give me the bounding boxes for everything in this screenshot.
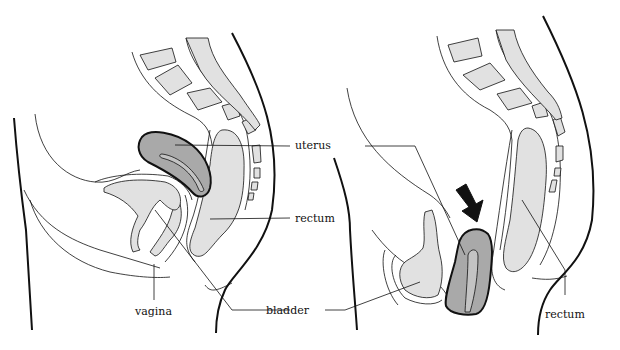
body-outline-front-right: [334, 158, 357, 330]
label-rectum-right: rectum: [545, 308, 585, 321]
label-vagina: vagina: [134, 305, 172, 318]
body-outline-front: [14, 118, 32, 330]
spine-right: [437, 30, 565, 265]
leader-uterus-right: [365, 146, 465, 255]
label-rectum-left: rectum: [295, 212, 335, 225]
uterus-right-prolapsed: [446, 229, 492, 315]
label-bladder: bladder: [266, 304, 310, 317]
right-panel-prolapse: rectum: [325, 16, 594, 335]
abdominal-wall: [35, 114, 140, 182]
left-panel-normal: vagina rectum: [14, 33, 335, 333]
arrow-down-right-icon: [456, 184, 483, 222]
label-uterus: uterus: [295, 139, 331, 152]
rectum-right: [503, 128, 546, 272]
prolapse-diagram: vagina rectum uterus bladder: [0, 0, 620, 350]
bladder-right: [400, 210, 442, 298]
